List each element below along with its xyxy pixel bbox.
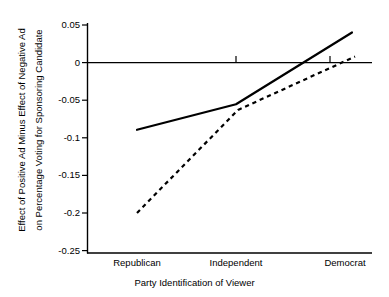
series-line-solid <box>137 33 352 130</box>
y-axis-title-line1: Effect of Positive Ad Minus Effect of Ne… <box>14 0 30 260</box>
x-tick-label-republican: Republican <box>97 258 177 268</box>
y-tick-label-4: -0.15 <box>46 170 80 180</box>
x-tick-label-independent: Independent <box>196 258 276 268</box>
y-tick-label-2: -0.05 <box>46 95 80 105</box>
chart-figure: 0.05 0 -0.05 -0.1 -0.15 -0.2 -0.25 Repub… <box>0 0 389 297</box>
series-line-dashed <box>137 57 355 213</box>
y-tick-label-1: 0 <box>46 58 80 68</box>
y-tick-label-5: -0.2 <box>46 208 80 218</box>
y-tick-label-6: -0.25 <box>46 246 80 256</box>
y-axis-title: Effect of Positive Ad Minus Effect of Ne… <box>14 0 48 260</box>
x-axis-title: Party Identification of Viewer <box>0 277 389 288</box>
x-tick-label-democrat: Democrat <box>305 258 385 268</box>
y-tick-label-0: 0.05 <box>46 20 80 30</box>
x-tick-marks <box>236 56 330 63</box>
y-tick-label-3: -0.1 <box>46 133 80 143</box>
y-axis-title-line2: on Percentage Voting for Sponsoring Cand… <box>31 0 47 260</box>
